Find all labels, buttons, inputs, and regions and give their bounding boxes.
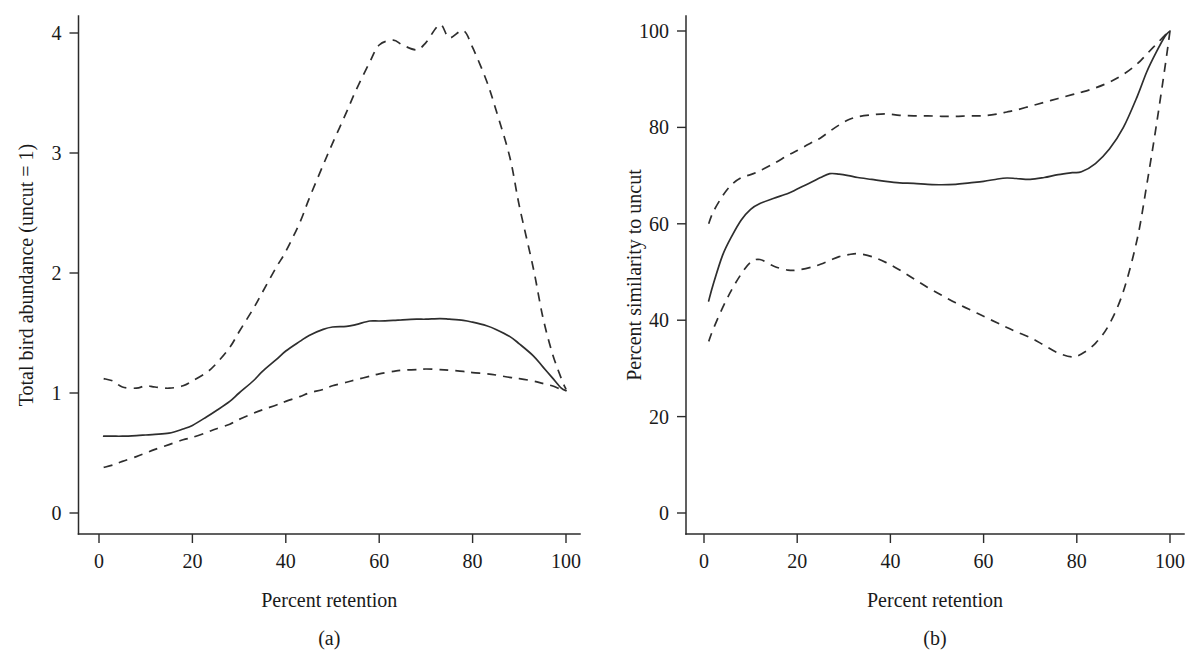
panel-b-x-tick-label: 0: [674, 551, 734, 571]
panel-b-y-tick-label: 0: [617, 503, 669, 523]
panel-b-series-upper-confidence-limit: [709, 31, 1170, 224]
panel-b-plot: [594, 0, 1188, 641]
panel-a-x-tick-label: 60: [349, 551, 409, 571]
panel-b-series-lower-confidence-limit: [709, 31, 1170, 357]
panel-a-caption: (a): [79, 627, 581, 650]
panel-a-y-tick-label: 0: [10, 503, 62, 523]
panel-a-y-tick-label: 4: [10, 23, 62, 43]
panel-a-series-mean: [104, 319, 566, 437]
panel-a-x-tick-label: 80: [443, 551, 503, 571]
panel-b-y-axis-title: Percent similarity to uncut: [623, 169, 646, 381]
panel-b-x-tick-label: 60: [954, 551, 1014, 571]
panel-a-y-tick-label: 2: [10, 263, 62, 283]
panel-b-x-tick-label: 40: [860, 551, 920, 571]
panel-b-x-tick-label: 100: [1140, 551, 1188, 571]
panel-a-x-tick-label: 40: [256, 551, 316, 571]
panel-b-x-tick-label: 20: [767, 551, 827, 571]
panel-b-x-tick-label: 80: [1047, 551, 1107, 571]
panel-a-series-lower-confidence-limit: [104, 369, 566, 467]
panel-b-y-tick-label: 80: [617, 117, 669, 137]
panel-a-series-upper-confidence-limit: [104, 25, 566, 390]
panel-a-x-axis-title: Percent retention: [79, 589, 581, 612]
panel-b-series-mean: [709, 31, 1170, 301]
panel-b-y-tick-label: 20: [617, 407, 669, 427]
panel-b: Percent similarity to uncut Percent rete…: [594, 0, 1188, 641]
panel-b-x-axis-title: Percent retention: [686, 589, 1184, 612]
panel-a: Total bird abundance (uncut = 1) Percent…: [0, 0, 594, 641]
panel-a-x-tick-label: 0: [69, 551, 129, 571]
panel-a-plot: [0, 0, 594, 641]
panel-b-caption: (b): [686, 627, 1184, 650]
panel-a-x-tick-label: 20: [162, 551, 222, 571]
panel-a-x-tick-label: 100: [536, 551, 596, 571]
panel-a-y-tick-label: 3: [10, 143, 62, 163]
panel-b-y-tick-label: 100: [617, 21, 669, 41]
panel-b-y-tick-label: 40: [617, 310, 669, 330]
panel-b-y-tick-label: 60: [617, 214, 669, 234]
panel-a-y-tick-label: 1: [10, 383, 62, 403]
